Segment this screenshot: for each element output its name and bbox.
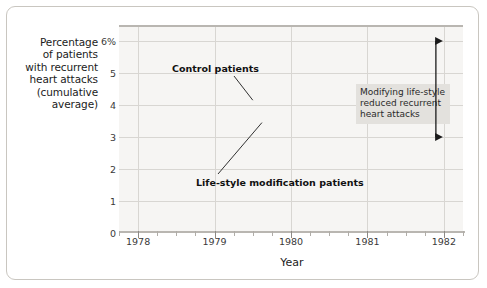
x-tick-label: 1982 xyxy=(432,236,456,247)
y-axis-ticks: 6%543210 xyxy=(88,25,116,233)
gridline-vertical xyxy=(367,25,368,233)
x-tick-label: 1979 xyxy=(202,236,226,247)
chart-figure: Percentage of patients with recurrent he… xyxy=(0,0,487,288)
gridline-vertical xyxy=(291,25,292,233)
x-axis-line xyxy=(119,231,465,233)
y-axis-title-line: heart attacks xyxy=(14,73,98,85)
y-axis-title-line: of patients xyxy=(14,48,98,60)
x-tick-label: 1978 xyxy=(126,236,150,247)
x-axis-title: Year xyxy=(119,256,465,269)
y-tick-label: 2 xyxy=(90,164,116,175)
y-axis-title-line: (cumulative xyxy=(14,86,98,98)
y-tick-label: 0 xyxy=(90,228,116,239)
callout-line: reduced recurrent xyxy=(360,98,446,109)
callout-annotation: Modifying life-style reduced recurrent h… xyxy=(356,84,450,124)
x-tick-label: 1980 xyxy=(279,236,303,247)
control-patients-label: Control patients xyxy=(172,63,259,74)
gridline-vertical xyxy=(138,25,139,233)
y-tick-label: 1 xyxy=(90,196,116,207)
y-axis-title-line: average) xyxy=(14,98,98,110)
plot-area xyxy=(119,25,463,233)
y-axis-title-line: with recurrent xyxy=(14,61,98,73)
y-tick-label: 4 xyxy=(90,100,116,111)
callout-line: heart attacks xyxy=(360,109,446,120)
y-tick-label: 6% xyxy=(90,36,116,47)
gridline-vertical xyxy=(215,25,216,233)
life-style-modification-label: Life-style modification patients xyxy=(196,177,364,188)
callout-line: Modifying life-style xyxy=(360,87,446,98)
x-tick-label: 1981 xyxy=(355,236,379,247)
top-axis-line xyxy=(119,25,463,27)
y-axis-title-line: Percentage xyxy=(14,36,98,48)
gridline-vertical xyxy=(444,25,445,233)
y-tick-label: 5 xyxy=(90,68,116,79)
y-tick-label: 3 xyxy=(90,132,116,143)
y-axis-title: Percentage of patients with recurrent he… xyxy=(14,36,98,110)
x-axis-ticks: 19781979198019811982 xyxy=(119,236,465,252)
